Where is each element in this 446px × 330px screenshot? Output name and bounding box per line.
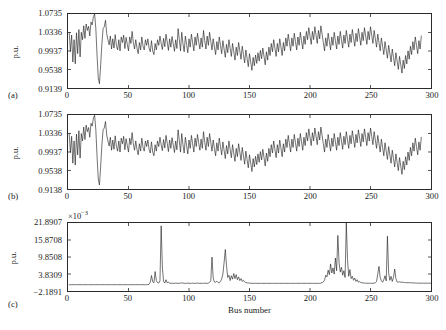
xtick-b-3: 150 [243, 192, 256, 201]
xtick-a-2: 100 [182, 91, 195, 100]
xtick-c-5: 250 [365, 294, 378, 303]
xtick-c-4: 200 [304, 294, 317, 303]
ytick-c-4: −2.1891 [0, 288, 62, 297]
panel-tag-c: (c) [8, 299, 18, 309]
xtick-a-5: 250 [365, 91, 378, 100]
xaxis-label: Bus number [228, 305, 271, 315]
plot-area-c [67, 222, 432, 292]
plot-area-b [67, 114, 432, 190]
xtick-a-6: 300 [426, 91, 439, 100]
xtick-b-4: 200 [304, 192, 317, 201]
exponent-label-c: ×10−3 [68, 209, 88, 221]
xtick-c-2: 100 [182, 294, 195, 303]
xtick-a-0: 0 [65, 91, 69, 100]
xtick-b-6: 300 [426, 192, 439, 201]
xtick-c-6: 300 [426, 294, 439, 303]
xtick-b-1: 50 [124, 192, 133, 201]
ytick-c-0: 21.8907 [0, 218, 62, 227]
xtick-c-0: 0 [65, 294, 69, 303]
xtick-b-0: 0 [65, 192, 69, 201]
panel-tag-b: (b) [8, 191, 18, 201]
xtick-a-4: 200 [304, 91, 317, 100]
exponent-power: −3 [81, 209, 88, 216]
ytick-b-0: 1.0735 [0, 110, 62, 119]
ytick-a-0: 1.0735 [0, 9, 62, 18]
ylabel-b: p.u. [10, 133, 20, 173]
ylabel-c: p.u. [8, 238, 18, 278]
xtick-c-3: 150 [243, 294, 256, 303]
xtick-a-3: 150 [243, 91, 256, 100]
ylabel-a: p.u. [10, 32, 20, 72]
panel-tag-a: (a) [8, 90, 18, 100]
xtick-b-5: 250 [365, 192, 378, 201]
xtick-a-1: 50 [124, 91, 133, 100]
figure-voltage-profiles: 1.0735 1.0336 0.9937 0.9538 0.9139 p.u. … [0, 0, 446, 330]
xtick-b-2: 100 [182, 192, 195, 201]
xtick-c-1: 50 [124, 294, 133, 303]
plot-area-a [67, 13, 432, 89]
exponent-prefix: ×10 [68, 212, 81, 221]
